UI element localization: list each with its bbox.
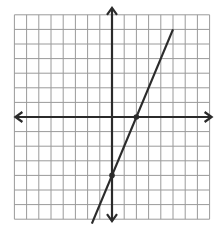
y-intercept-point (109, 173, 115, 179)
x-intercept-point (134, 114, 140, 120)
coordinate-plane (0, 0, 219, 241)
axes (15, 8, 211, 221)
